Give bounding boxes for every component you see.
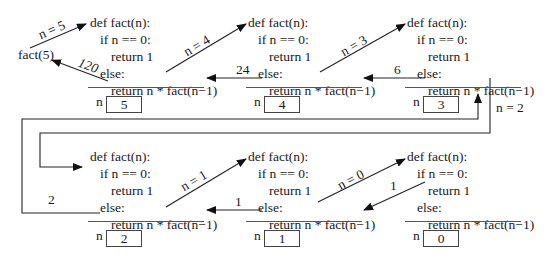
code-line: else: xyxy=(90,199,217,216)
code-line: return 1 xyxy=(407,48,534,65)
return-label-6: 6 xyxy=(394,62,401,78)
code-line: def fact(n): xyxy=(248,148,375,165)
frame-divider xyxy=(88,221,204,222)
call-label-n2: n = 2 xyxy=(496,100,524,116)
code-line: if n == 0: xyxy=(90,165,217,182)
n-value-box: 0 xyxy=(423,230,459,247)
n-value-box: 3 xyxy=(423,96,459,113)
code-line: return 1 xyxy=(90,182,217,199)
code-line: def fact(n): xyxy=(407,148,534,165)
code-line: if n == 0: xyxy=(248,165,375,182)
call-expression: fact(5) xyxy=(18,47,54,63)
n-label: n xyxy=(96,94,103,110)
code-line: def fact(n): xyxy=(90,14,217,31)
code-line: def fact(n): xyxy=(407,14,534,31)
code-line: else: xyxy=(248,199,375,216)
frame-divider xyxy=(246,87,362,88)
code-line: if n == 0: xyxy=(407,165,534,182)
code-line: else: xyxy=(248,65,375,82)
return-label-2: 2 xyxy=(48,192,55,208)
return-label-1a: 1 xyxy=(235,194,242,210)
code-line: else: xyxy=(90,65,217,82)
code-line: return 1 xyxy=(90,48,217,65)
code-line: def fact(n): xyxy=(90,148,217,165)
code-line: if n == 0: xyxy=(248,31,375,48)
n-label: n xyxy=(254,228,261,244)
code-line: def fact(n): xyxy=(248,14,375,31)
code-line: else: xyxy=(407,65,534,82)
code-line: if n == 0: xyxy=(90,31,217,48)
n-value-box: 1 xyxy=(264,230,300,247)
frame-divider xyxy=(405,87,521,88)
frame-divider xyxy=(405,221,521,222)
frame-divider xyxy=(246,221,362,222)
n-value-box: 2 xyxy=(106,230,142,247)
return-label-1b: 1 xyxy=(390,178,397,194)
n-label: n xyxy=(96,228,103,244)
n-label: n xyxy=(413,228,420,244)
n-value-box: 5 xyxy=(106,96,142,113)
code-line: return 1 xyxy=(248,182,375,199)
code-line: return 1 xyxy=(248,48,375,65)
code-line: return 1 xyxy=(407,182,534,199)
n-label: n xyxy=(254,94,261,110)
code-line: else: xyxy=(407,199,534,216)
n-label: n xyxy=(413,94,420,110)
frame-divider xyxy=(88,87,204,88)
n-value-box: 4 xyxy=(264,96,300,113)
code-line: if n == 0: xyxy=(407,31,534,48)
